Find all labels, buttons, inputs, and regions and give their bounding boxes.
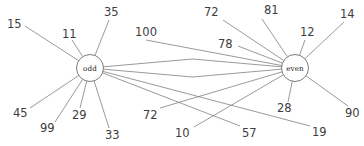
- graph-edge: [94, 81, 109, 128]
- node-label: 90: [345, 107, 360, 119]
- node-label: 28: [277, 102, 292, 114]
- graph-edge: [146, 40, 282, 66]
- graph-edge: [288, 81, 292, 102]
- node-label: 35: [104, 6, 119, 18]
- graph-edge: [300, 40, 305, 55]
- hubs-layer: oddeven: [77, 55, 309, 82]
- node-label: 29: [72, 109, 87, 121]
- node-label: 10: [175, 127, 190, 139]
- node-label: 12: [300, 26, 315, 38]
- graph-diagram: oddeven 15113510045992933721057197281781…: [0, 0, 364, 146]
- graph-edge: [95, 20, 109, 55]
- graph-edge: [306, 76, 348, 106]
- node-label: 72: [143, 109, 158, 121]
- graph-edge: [238, 46, 282, 63]
- node-label: 19: [312, 126, 327, 138]
- hub-node-label: even: [286, 64, 304, 73]
- graph-edge: [30, 75, 79, 108]
- node-label: 99: [40, 122, 55, 134]
- node-label: 57: [242, 127, 257, 139]
- graph-edge: [103, 71, 310, 126]
- node-label: 45: [13, 107, 28, 119]
- graph-edge: [80, 81, 87, 108]
- graph-edge: [194, 75, 283, 127]
- hub-node-label: odd: [83, 64, 97, 73]
- node-label: 14: [340, 8, 355, 20]
- node-label: 33: [105, 129, 120, 141]
- node-label: 72: [204, 6, 219, 18]
- node-label: 15: [7, 18, 22, 30]
- graph-edge: [103, 73, 240, 126]
- node-label: 78: [218, 38, 233, 50]
- graph-edge: [72, 40, 83, 57]
- node-label: 81: [264, 4, 279, 16]
- graph-edge: [262, 19, 287, 57]
- node-label: 100: [135, 26, 157, 38]
- hub-to-hub-edge: [103, 69, 281, 77]
- node-label: 11: [62, 28, 77, 40]
